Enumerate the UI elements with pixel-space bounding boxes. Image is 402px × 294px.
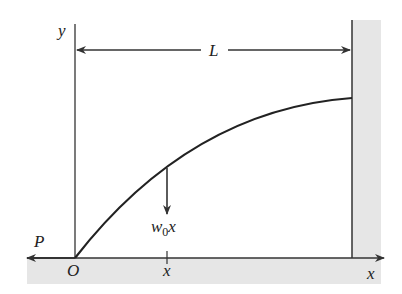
beam-curve [75, 98, 352, 258]
load-label-main: w [151, 217, 163, 236]
ground-support [27, 258, 381, 284]
load-label: w0x [151, 217, 176, 239]
load-label-var: x [167, 217, 176, 236]
x-axis-label: x [366, 264, 375, 283]
length-label: L [208, 41, 218, 60]
origin-label: O [67, 261, 79, 280]
beam-diagram: y L P O x x w0x [0, 0, 402, 294]
wall-support [352, 20, 381, 284]
y-axis-label: y [56, 21, 66, 40]
force-label: P [33, 232, 44, 251]
position-label: x [162, 261, 171, 280]
